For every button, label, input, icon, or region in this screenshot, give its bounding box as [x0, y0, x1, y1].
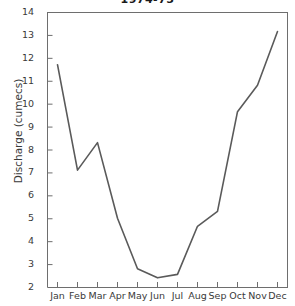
x-tick-label: Jul — [172, 290, 183, 301]
x-tick-label-group: JanFebMarAprMayJunJulAugSepOctNovDec — [0, 290, 295, 306]
x-tick-label: Oct — [229, 290, 245, 301]
discharge-series-line — [58, 31, 278, 277]
x-tick-label: Sep — [209, 290, 227, 301]
x-tick-label: Feb — [69, 290, 86, 301]
discharge-line-chart: 1974-75 Discharge (cumecs) 1413121110987… — [0, 0, 295, 306]
plot-area — [0, 0, 295, 306]
x-tick-label: Apr — [109, 290, 125, 301]
x-tick-label: Nov — [248, 290, 267, 301]
x-tick-label: May — [128, 290, 148, 301]
x-tick-label: Jun — [150, 290, 165, 301]
x-tick-label: Dec — [268, 290, 286, 301]
y-tick-marks — [48, 13, 53, 288]
x-tick-label: Jan — [50, 290, 65, 301]
axis-lines — [48, 12, 289, 288]
x-tick-label: Mar — [89, 290, 107, 301]
x-tick-label: Aug — [188, 290, 207, 301]
x-tick-marks — [58, 282, 278, 287]
